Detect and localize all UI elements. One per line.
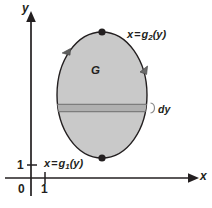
- dy-brace-icon: [151, 103, 155, 113]
- figure-canvas: [0, 0, 212, 208]
- strip-group: [50, 104, 154, 112]
- x-axis-arrowhead-icon: [188, 173, 199, 183]
- bottom-vertex-dot: [98, 154, 105, 161]
- curve-g2-argument: (y): [153, 28, 166, 40]
- x-axis-tick-label-1: 1: [41, 183, 48, 195]
- curve-g1-equals: =: [50, 157, 58, 169]
- strip-dy-label: dy: [158, 104, 170, 115]
- strip-band: [50, 104, 154, 112]
- curve-g2-equals: =: [133, 28, 141, 40]
- top-vertex-dot: [98, 28, 105, 35]
- orientation-arrow-upper-left-icon: [62, 49, 70, 56]
- y-axis-tick-label-1: 1: [17, 159, 24, 171]
- curve-g1-label: x=g1(y): [44, 158, 83, 171]
- origin-label: 0: [18, 183, 25, 195]
- region-g-label: G: [91, 65, 100, 77]
- figure-container: y x G x=g2(y) x=g1(y) dy 1 0 1: [0, 0, 212, 208]
- curve-g1-argument: (y): [70, 157, 83, 169]
- curve-g2-label: x=g2(y): [127, 29, 166, 42]
- x-axis-label: x: [200, 170, 207, 182]
- y-axis-label: y: [22, 2, 29, 14]
